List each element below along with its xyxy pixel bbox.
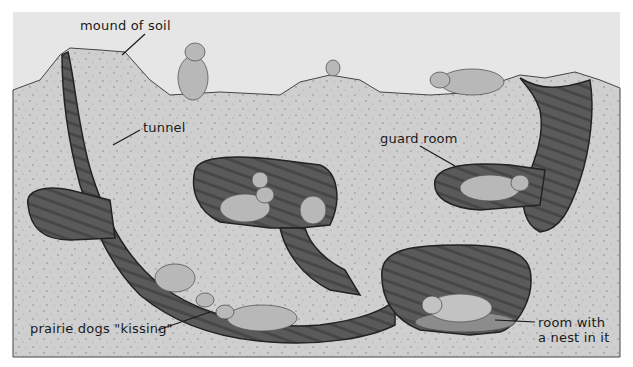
label-tunnel: tunnel (143, 121, 186, 135)
label-room-with-nest-line1: room with (538, 316, 605, 330)
label-prairie-dogs-kissing: prairie dogs "kissing" (30, 322, 173, 336)
label-mound-of-soil: mound of soil (80, 19, 171, 33)
prairie-dog-peeking (326, 60, 340, 76)
label-room-with-nest-line2: a nest in it (538, 331, 609, 345)
burrow-diagram: mound of soil tunnel guard room prairie … (0, 0, 633, 367)
label-guard-room: guard room (380, 132, 458, 146)
